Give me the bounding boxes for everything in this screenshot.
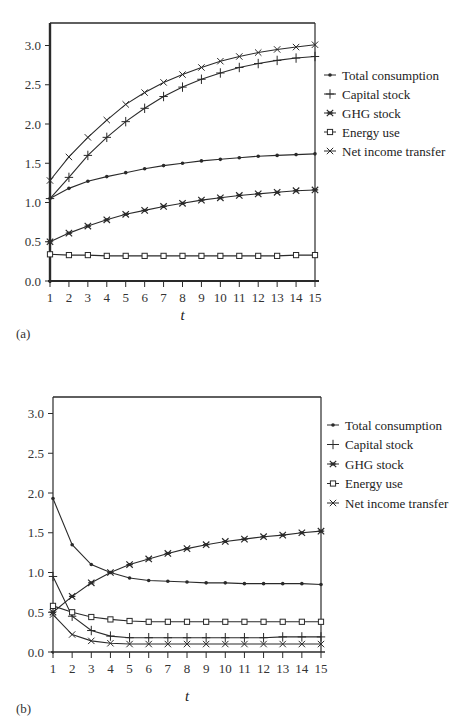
marker-dot-icon — [143, 167, 147, 171]
x-tick-label: 7 — [160, 290, 167, 305]
y-tick-label: 0.0 — [25, 274, 41, 289]
legend-label: Capital stock — [342, 87, 411, 102]
marker-square-icon — [237, 253, 242, 258]
x-tick-label: 7 — [165, 661, 172, 676]
marker-square-icon — [223, 619, 228, 624]
x-tick-label: 2 — [66, 290, 73, 305]
y-tick-label: 3.0 — [25, 38, 41, 53]
x-tick-label: 6 — [141, 290, 148, 305]
y-tick-label: 0.5 — [28, 605, 44, 620]
x-tick-label: 4 — [107, 661, 114, 676]
legend-label: Energy use — [342, 125, 400, 140]
marker-square-icon — [70, 610, 75, 615]
marker-cross-icon — [160, 79, 166, 85]
legend-item: GHG stock — [327, 457, 404, 472]
x-tick-label: 8 — [179, 290, 186, 305]
marker-dot-icon — [124, 171, 128, 175]
marker-plus-icon — [311, 52, 319, 61]
marker-dot-icon — [319, 583, 323, 587]
marker-plus-icon — [279, 632, 287, 641]
legend-label: Net income transfer — [345, 496, 449, 511]
legend-item: Total consumption — [324, 68, 439, 83]
panel-label-a: (a) — [16, 326, 30, 342]
marker-dot-icon — [219, 158, 223, 162]
marker-square-icon — [184, 619, 189, 624]
marker-plus-icon — [298, 632, 306, 641]
marker-cross-icon — [66, 154, 72, 160]
marker-square-icon — [165, 619, 170, 624]
marker-cross-icon — [69, 631, 75, 637]
marker-square-icon — [275, 253, 280, 258]
legend-item: Energy use — [327, 476, 403, 491]
marker-cross-icon — [123, 101, 129, 107]
marker-square-icon — [330, 481, 335, 486]
marker-plus-icon — [317, 632, 325, 641]
marker-square-icon — [199, 253, 204, 258]
series-ghg-stock — [50, 528, 324, 615]
marker-square-icon — [318, 619, 323, 624]
marker-square-icon — [127, 618, 132, 623]
marker-dot-icon — [204, 581, 208, 585]
marker-cross-icon — [141, 89, 147, 95]
marker-square-icon — [85, 252, 90, 257]
series-total-consumption — [51, 497, 323, 586]
marker-square-icon — [108, 617, 113, 622]
marker-square-icon — [293, 252, 298, 257]
x-tick-label: 5 — [122, 290, 129, 305]
marker-square-icon — [89, 614, 94, 619]
x-tick-label: 11 — [238, 661, 251, 676]
x-tick-label: 9 — [203, 661, 210, 676]
marker-dot-icon — [147, 579, 151, 583]
marker-plus-icon — [159, 92, 167, 101]
legend-item: Total consumption — [327, 418, 442, 433]
marker-square-icon — [204, 619, 209, 624]
marker-dot-icon — [256, 154, 260, 158]
x-tick-label: 6 — [145, 661, 152, 676]
marker-dot-icon — [185, 580, 189, 584]
marker-dot-icon — [331, 423, 335, 427]
marker-dot-icon — [86, 180, 90, 184]
marker-square-icon — [299, 619, 304, 624]
marker-dot-icon — [237, 156, 241, 160]
marker-dot-icon — [200, 159, 204, 163]
marker-square-icon — [104, 253, 109, 258]
x-tick-label: 1 — [47, 290, 54, 305]
y-tick-label: 1.0 — [25, 195, 41, 210]
legend-label: Total consumption — [342, 68, 439, 83]
legend-item: Net income transfer — [327, 496, 449, 511]
marker-dot-icon — [105, 175, 109, 179]
marker-dot-icon — [313, 152, 317, 156]
legend-label: GHG stock — [342, 106, 401, 121]
marker-square-icon — [280, 619, 285, 624]
marker-dot-icon — [294, 153, 298, 157]
x-tick-label: 14 — [290, 290, 304, 305]
legend-label: Net income transfer — [342, 144, 446, 159]
marker-square-icon — [146, 619, 151, 624]
marker-dot-icon — [275, 154, 279, 158]
marker-dot-icon — [67, 187, 71, 191]
y-tick-label: 2.5 — [25, 77, 41, 92]
x-tick-label: 10 — [219, 661, 232, 676]
y-tick-label: 2.5 — [28, 446, 44, 461]
marker-dot-icon — [223, 581, 227, 585]
line-chart-b: 0.00.51.01.52.02.53.01234567891011121314… — [0, 370, 462, 726]
y-tick-label: 0.5 — [25, 234, 41, 249]
legend-item: Energy use — [324, 125, 400, 140]
marker-square-icon — [312, 252, 317, 257]
x-tick-label: 5 — [126, 661, 133, 676]
marker-plus-icon — [197, 75, 205, 84]
marker-square-icon — [123, 253, 128, 258]
x-tick-label: 12 — [257, 661, 270, 676]
legend-item: Net income transfer — [324, 144, 446, 159]
x-tick-label: 14 — [295, 661, 309, 676]
marker-square-icon — [161, 253, 166, 258]
marker-dot-icon — [51, 497, 55, 501]
marker-dot-icon — [166, 579, 170, 583]
marker-cross-icon — [85, 134, 91, 140]
legend-item: GHG stock — [324, 106, 401, 121]
marker-dot-icon — [162, 164, 166, 168]
chart-panel-a: 0.00.51.01.52.02.53.01234567891011121314… — [0, 0, 462, 360]
marker-plus-icon — [87, 626, 95, 635]
marker-dot-icon — [70, 543, 74, 547]
x-tick-label: 13 — [276, 661, 289, 676]
